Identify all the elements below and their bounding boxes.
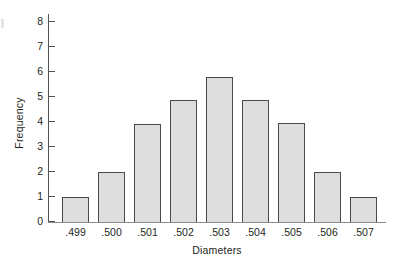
histogram-figure: Frequency 012345678 .499.500.501.502.503… xyxy=(0,0,411,265)
histogram-bar xyxy=(350,197,377,222)
histogram-bar xyxy=(242,100,269,221)
y-axis-tick-label: 2 xyxy=(29,166,43,177)
x-axis-tick-label: .503 xyxy=(202,227,238,238)
histogram-bar xyxy=(134,124,161,222)
y-axis-tick-label: 7 xyxy=(29,41,43,52)
y-axis-tick xyxy=(49,46,55,47)
y-axis-tick-label: 3 xyxy=(29,141,43,152)
x-axis-tick-label: .500 xyxy=(94,227,130,238)
histogram-bar xyxy=(98,172,125,222)
histogram-bar xyxy=(170,100,197,221)
y-axis-tick xyxy=(49,171,55,172)
y-axis-tick xyxy=(49,121,55,122)
y-axis-title: Frequency xyxy=(13,0,27,78)
y-axis-tick-label: 5 xyxy=(29,91,43,102)
histogram-bar xyxy=(62,197,89,222)
y-axis-tick-label: 4 xyxy=(29,116,43,127)
x-axis-title: Diameters xyxy=(47,244,387,256)
x-axis-tick-label: .501 xyxy=(130,227,166,238)
x-axis-tick-label: .505 xyxy=(274,227,310,238)
y-axis-tick-label: 1 xyxy=(29,191,43,202)
x-axis-tick-label: .499 xyxy=(58,227,94,238)
y-axis-tick xyxy=(49,221,55,222)
y-axis-tick-label: 8 xyxy=(29,16,43,27)
y-axis-tick-label: 6 xyxy=(29,66,43,77)
histogram-bar xyxy=(278,123,305,222)
y-axis-tick xyxy=(49,146,55,147)
scan-artifact xyxy=(1,19,4,28)
y-axis-tick xyxy=(49,96,55,97)
x-axis-tick-label: .502 xyxy=(166,227,202,238)
y-axis-tick xyxy=(49,21,55,22)
y-axis-tick xyxy=(49,196,55,197)
y-axis-title-label: Frequency xyxy=(13,78,25,168)
histogram-bar xyxy=(206,77,233,222)
x-axis-tick-label: .507 xyxy=(346,227,382,238)
x-axis-line xyxy=(48,222,386,224)
x-axis-tick-label: .506 xyxy=(310,227,346,238)
histogram-bar xyxy=(314,172,341,222)
y-axis-tick xyxy=(49,71,55,72)
x-axis-tick-label: .504 xyxy=(238,227,274,238)
y-axis-tick-label: 0 xyxy=(29,216,43,227)
